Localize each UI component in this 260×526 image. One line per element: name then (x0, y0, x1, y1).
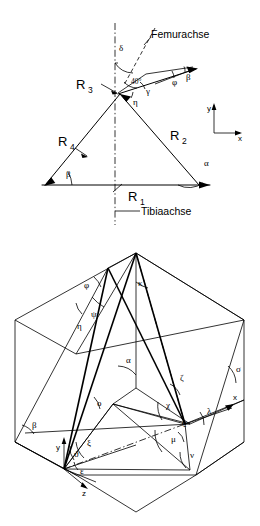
label-alpha: α (204, 158, 209, 168)
label-eta: η (133, 97, 138, 107)
label-psi-b: ψ (91, 309, 97, 319)
label-delta: δ (119, 43, 123, 53)
label-r2-index: 2 (182, 136, 187, 146)
label-chi-b: χ (165, 400, 170, 410)
label-beta-lower: β (66, 169, 71, 179)
label-r2: R (170, 128, 179, 143)
label-r4: R (58, 134, 67, 149)
label-epsilon-b: ε (80, 466, 84, 476)
label-xi-b: ξ (87, 438, 91, 448)
label-tibiaachse: Tibiaachse (141, 205, 192, 217)
label-rho-b: ϱ (182, 417, 187, 427)
label-beta-b: β (32, 420, 37, 430)
label-40deg: 40° (131, 77, 142, 86)
label-eta-b: η (77, 321, 82, 331)
label-r3: R (76, 77, 85, 92)
label-zeta-b: ζ (180, 373, 184, 383)
label-phi-b: φ (84, 280, 89, 290)
label-r4-index: 4 (70, 142, 75, 152)
label-axis-y-bottom: y (56, 443, 60, 452)
label-alpha-b: α (126, 355, 131, 365)
label-kappa-b: κ (138, 278, 143, 288)
technical-figure: δ 40° γ η φ β β α R 3 R 4 R 2 R 1 Femura… (0, 0, 260, 526)
label-nu-b: ν (190, 450, 194, 460)
label-femurachse: Femurachse (151, 28, 210, 40)
label-axis-y-top: y (207, 104, 211, 113)
label-axis-z-bottom: z (82, 489, 86, 498)
label-phi: φ (172, 77, 177, 87)
label-omicron-b: ο (97, 398, 102, 408)
label-axis-x-bottom: x (233, 393, 237, 402)
label-mu-b: μ (171, 434, 176, 444)
label-r3-index: 3 (88, 85, 93, 95)
label-r1: R (128, 189, 137, 204)
label-sigma-b: σ (236, 364, 241, 374)
label-axis-x-top: x (238, 134, 242, 143)
label-gamma: γ (145, 86, 150, 96)
label-theta-b: ϑ (74, 449, 79, 459)
label-lambda-b: λ (207, 406, 212, 416)
label-beta-upper: β (186, 72, 191, 82)
